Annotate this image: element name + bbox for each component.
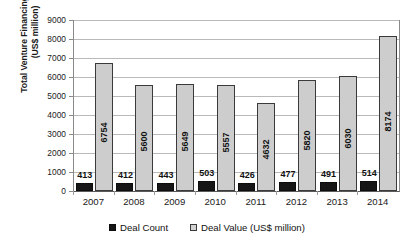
- bar-deal-count[interactable]: [116, 183, 133, 191]
- y-axis-tick-label: 7000: [34, 54, 66, 62]
- y-axis-tick-label: 8000: [34, 35, 66, 43]
- y-axis-tick-label: 9000: [34, 16, 66, 24]
- bar-deal-count[interactable]: [157, 183, 174, 191]
- y-axis-tick-label: 3000: [34, 130, 66, 138]
- black-square-marker-icon: [109, 224, 116, 231]
- bar-group: 5148174: [360, 20, 397, 191]
- y-axis-tick-label: 5000: [34, 92, 66, 100]
- bar-label-deal-value: 5557: [221, 122, 230, 162]
- bar-label-deal-value: 5820: [302, 120, 311, 160]
- y-axis-tick-label: 6000: [34, 73, 66, 81]
- bar-deal-count[interactable]: [360, 181, 377, 191]
- legend-item-deal-count: Deal Count: [109, 222, 168, 233]
- bar-group: 4264632: [238, 20, 275, 191]
- gray-square-marker-icon: [190, 224, 197, 231]
- y-axis-title-line-1: Total Venture Financing Value: [19, 0, 31, 93]
- bar-label-deal-value: 8174: [384, 101, 393, 141]
- bar-group: 5035557: [198, 20, 235, 191]
- bar-label-deal-value: 5649: [181, 121, 190, 161]
- y-axis-title-line-2: (US$ million): [30, 6, 42, 59]
- x-axis-tick-mark: [114, 191, 115, 195]
- legend-label-deal-count: Deal Count: [120, 222, 168, 233]
- chart-legend: Deal Count Deal Value (US$ million): [0, 222, 414, 233]
- x-axis-tick-mark: [73, 191, 74, 195]
- y-axis-tick-label: 1000: [34, 168, 66, 176]
- bar-deal-count[interactable]: [279, 182, 296, 191]
- bar-group: 4916030: [320, 20, 357, 191]
- x-axis-tick-mark: [154, 191, 155, 195]
- bar-group: 4125600: [116, 20, 153, 191]
- bar-label-deal-value: 6754: [99, 113, 108, 153]
- bar-group: 4435649: [157, 20, 194, 191]
- y-axis-tick-label: 2000: [34, 149, 66, 157]
- bar-deal-count[interactable]: [238, 183, 255, 191]
- bar-label-deal-value: 5600: [140, 122, 149, 162]
- bar-label-deal-value: 6030: [343, 118, 352, 158]
- legend-item-deal-value: Deal Value (US$ million): [190, 222, 305, 233]
- bar-label-deal-value: 4632: [262, 130, 271, 170]
- bar-group: 4136754: [76, 20, 113, 191]
- x-axis-tick-mark: [357, 191, 358, 195]
- venture-financing-bar-chart: Total Venture Financing Value (US$ milli…: [0, 0, 414, 245]
- x-axis-tick-mark: [195, 191, 196, 195]
- y-axis-tick-label: 0: [34, 187, 66, 195]
- x-axis-tick-mark: [236, 191, 237, 195]
- x-axis-tick-mark: [276, 191, 277, 195]
- bar-group: 4775820: [279, 20, 316, 191]
- y-axis-tick-label: 4000: [34, 111, 66, 119]
- bar-deal-count[interactable]: [198, 181, 215, 191]
- bar-deal-count[interactable]: [320, 182, 337, 191]
- plot-area: 4136754412560044356495035557426463247758…: [73, 20, 400, 192]
- x-axis-tick-mark: [317, 191, 318, 195]
- legend-label-deal-value: Deal Value (US$ million): [201, 222, 305, 233]
- bar-deal-count[interactable]: [76, 183, 93, 191]
- x-axis-tick-label: 2014: [348, 196, 408, 207]
